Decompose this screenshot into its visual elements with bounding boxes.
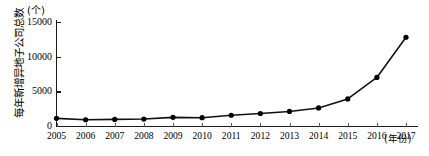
- x-tick-mark: [231, 123, 232, 127]
- x-tick-label: 2011: [222, 131, 241, 141]
- data-point: [229, 113, 234, 118]
- y-tick-mark: [57, 57, 61, 58]
- x-tick-mark: [406, 123, 407, 127]
- x-tick-label: 2017: [396, 131, 415, 141]
- x-tick-label: 2015: [338, 131, 357, 141]
- x-tick-label: 2009: [163, 131, 182, 141]
- data-point: [83, 117, 88, 122]
- x-tick-label: 2005: [47, 131, 66, 141]
- data-point: [374, 75, 379, 80]
- x-tick-mark: [348, 123, 349, 127]
- data-point: [170, 115, 175, 120]
- x-tick-mark: [57, 123, 58, 127]
- x-tick-label: 2010: [193, 131, 212, 141]
- x-tick-label: 2007: [105, 131, 124, 141]
- x-tick-label: 2006: [76, 131, 95, 141]
- x-tick-mark: [115, 123, 116, 127]
- x-tick-label: 2016: [367, 131, 386, 141]
- series-markers: [54, 35, 409, 123]
- data-point: [141, 116, 146, 121]
- series-line: [57, 37, 407, 120]
- x-tick-mark: [202, 123, 203, 127]
- data-point: [200, 115, 205, 120]
- x-tick-mark: [377, 123, 378, 127]
- data-point: [316, 105, 321, 110]
- data-point: [345, 96, 350, 101]
- y-tick-mark: [57, 126, 61, 127]
- y-tick-mark: [57, 91, 61, 92]
- data-point: [258, 111, 263, 116]
- data-point: [403, 35, 408, 40]
- data-point: [112, 117, 117, 122]
- x-tick-label: 2008: [134, 131, 153, 141]
- data-point: [287, 109, 292, 114]
- x-tick-mark: [173, 123, 174, 127]
- x-tick-label: 2012: [251, 131, 270, 141]
- x-tick-mark: [319, 123, 320, 127]
- data-point: [54, 116, 59, 121]
- line-chart: 每年新增异地子公司总数 (个) 050001000015000 (年份) 200…: [0, 0, 429, 156]
- y-tick-mark: [57, 22, 61, 23]
- x-tick-mark: [144, 123, 145, 127]
- x-tick-label: 2014: [309, 131, 328, 141]
- x-tick-label: 2013: [280, 131, 299, 141]
- x-tick-mark: [290, 123, 291, 127]
- x-tick-mark: [86, 123, 87, 127]
- x-tick-mark: [260, 123, 261, 127]
